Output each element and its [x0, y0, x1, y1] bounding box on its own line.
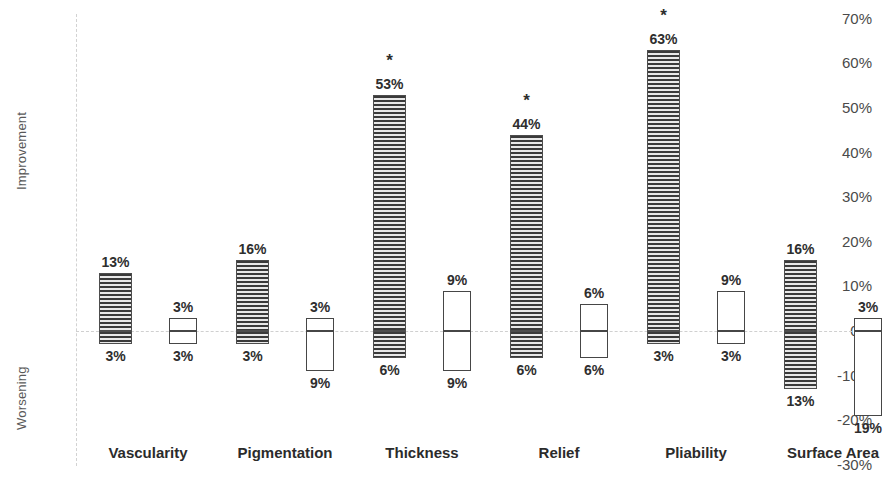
bar-improvement-control-0 [169, 318, 197, 331]
value-label-improvement: 16% [770, 241, 831, 257]
value-label-improvement: 3% [155, 299, 211, 315]
bar-worsening-treated-4 [647, 331, 680, 344]
significance-asterisk: * [359, 54, 420, 68]
y-axis-title-improvement: Improvement [14, 112, 29, 190]
bar-improvement-treated-2 [373, 95, 406, 331]
value-label-worsening: 9% [429, 375, 485, 391]
value-label-improvement: 3% [292, 299, 348, 315]
value-label-improvement: 9% [703, 272, 759, 288]
bar-improvement-treated-3 [510, 135, 543, 331]
category-label-vascularity: Vascularity [77, 443, 219, 462]
value-label-improvement: 63% [633, 31, 694, 47]
value-label-worsening: 3% [633, 348, 694, 364]
category-label-surface-area: Surface Area [762, 443, 887, 462]
bar-improvement-treated-4 [647, 50, 680, 331]
bar-improvement-treated-1 [236, 260, 269, 331]
value-label-worsening: 6% [359, 362, 420, 378]
value-label-worsening: 3% [85, 348, 146, 364]
category-label-pliability: Pliability [625, 443, 767, 462]
value-label-improvement: 3% [840, 299, 887, 315]
bar-improvement-treated-0 [99, 273, 132, 331]
bar-worsening-control-2 [443, 331, 471, 371]
value-label-worsening: 19% [840, 420, 887, 436]
bar-improvement-control-2 [443, 291, 471, 331]
bar-improvement-control-3 [580, 304, 608, 331]
y-axis-title-worsening: Worsening [14, 366, 29, 430]
value-label-worsening: 6% [496, 362, 557, 378]
value-label-improvement: 13% [85, 254, 146, 270]
y-axis-line [76, 14, 77, 466]
value-label-worsening: 13% [770, 393, 831, 409]
bar-worsening-control-3 [580, 331, 608, 358]
value-label-improvement: 44% [496, 116, 557, 132]
value-label-worsening: 3% [155, 348, 211, 364]
bar-worsening-treated-1 [236, 331, 269, 344]
value-label-worsening: 6% [566, 362, 622, 378]
bar-improvement-treated-5 [784, 260, 817, 331]
category-label-pigmentation: Pigmentation [214, 443, 356, 462]
bar-improvement-control-4 [717, 291, 745, 331]
value-label-improvement: 16% [222, 241, 283, 257]
value-label-improvement: 6% [566, 285, 622, 301]
bar-worsening-control-5 [854, 331, 882, 416]
significance-asterisk: * [633, 9, 694, 23]
value-label-improvement: 9% [429, 272, 485, 288]
bar-worsening-treated-5 [784, 331, 817, 389]
bar-worsening-control-0 [169, 331, 197, 344]
value-label-worsening: 3% [222, 348, 283, 364]
significance-asterisk: * [496, 94, 557, 108]
bar-worsening-treated-0 [99, 331, 132, 344]
category-label-relief: Relief [488, 443, 630, 462]
value-label-improvement: 53% [359, 76, 420, 92]
category-label-thickness: Thickness [351, 443, 493, 462]
bar-worsening-treated-3 [510, 331, 543, 358]
bar-improvement-control-1 [306, 318, 334, 331]
value-label-worsening: 3% [703, 348, 759, 364]
bar-worsening-control-1 [306, 331, 334, 371]
bar-worsening-control-4 [717, 331, 745, 344]
value-label-worsening: 9% [292, 375, 348, 391]
bar-improvement-control-5 [854, 318, 882, 331]
plot-area: 13%3%3%3%16%3%3%9%53%6%*9%9%44%6%*6%6%63… [76, 0, 872, 470]
bar-worsening-treated-2 [373, 331, 406, 358]
